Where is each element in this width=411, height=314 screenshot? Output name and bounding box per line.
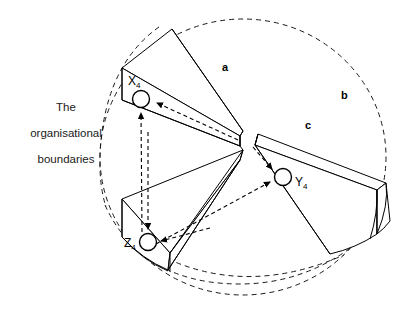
sector-label-c: c <box>305 119 311 131</box>
sector-label-a: a <box>222 61 229 73</box>
wedge-sector-bottom-left <box>122 150 243 272</box>
caption-line-3: boundaries <box>20 153 112 166</box>
node-z4-circle[interactable] <box>140 234 157 251</box>
boundary-caption: The organisational boundaries <box>20 88 112 179</box>
caption-line-1: The <box>20 101 112 114</box>
sector-label-b: b <box>341 89 348 101</box>
caption-line-2: organisational <box>20 127 112 140</box>
node-x4-circle[interactable] <box>133 91 150 108</box>
wedge-sector-c <box>255 134 390 254</box>
figure-root: X4 Y4 Z4 a b c The organisational bounda… <box>0 0 411 314</box>
node-y4-circle[interactable] <box>275 169 292 186</box>
